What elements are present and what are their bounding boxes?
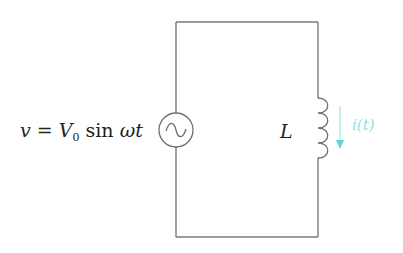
sine-wave-icon bbox=[166, 123, 186, 136]
ac-source bbox=[159, 113, 193, 147]
current-indicator bbox=[336, 106, 344, 149]
arrow-down-icon bbox=[336, 140, 344, 149]
source-label: v = V0 sin ωt bbox=[20, 119, 143, 144]
inductor bbox=[318, 98, 328, 158]
circuit-wires bbox=[176, 22, 318, 237]
inductor-label: L bbox=[279, 120, 293, 142]
circuit-diagram: v = V0 sin ωt L i(t) bbox=[0, 0, 403, 253]
current-label: i(t) bbox=[352, 116, 375, 134]
inductor-coil-icon bbox=[318, 98, 328, 158]
